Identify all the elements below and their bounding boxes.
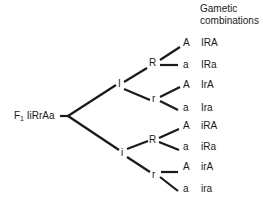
root-genotype-label: F1 IiRrAa xyxy=(14,110,55,123)
branch-I-r xyxy=(124,89,150,100)
allele-a-3: a xyxy=(183,141,189,153)
node-i: i xyxy=(121,147,123,159)
gamete-combination: IRa xyxy=(201,59,217,71)
branch-R2-A xyxy=(159,129,179,138)
branch-r1-A xyxy=(160,87,180,97)
branch-r2-a xyxy=(160,177,178,191)
gamete-combination: IRA xyxy=(201,37,218,49)
branch-root-I xyxy=(68,85,116,116)
branch-R1-A xyxy=(160,47,180,60)
allele-A-2: A xyxy=(183,79,190,91)
root-genotype: IiRrAa xyxy=(27,110,55,121)
allele-a-4: a xyxy=(183,183,189,195)
allele-a-1: a xyxy=(183,59,189,71)
allele-A-3: A xyxy=(183,120,190,132)
branch-R2-a xyxy=(159,142,179,150)
node-r-lower: r xyxy=(152,169,155,181)
branch-r1-a xyxy=(160,101,178,110)
gamete-combination: ira xyxy=(201,183,212,195)
header-line-1: Gametic xyxy=(200,3,259,15)
gamete-combination: Ira xyxy=(201,102,213,114)
gametic-combinations-header: Gametic combinations xyxy=(200,3,259,27)
gamete-combination: IrA xyxy=(201,79,214,91)
gamete-combination: irA xyxy=(201,161,213,173)
node-R-upper: R xyxy=(149,57,156,69)
node-R-lower: R xyxy=(149,134,156,146)
allele-A-1: A xyxy=(183,37,190,49)
branch-i-r xyxy=(127,157,150,172)
branch-root-i xyxy=(68,116,119,150)
header-line-2: combinations xyxy=(200,15,259,27)
node-I: I xyxy=(118,78,121,90)
gamete-combination: iRa xyxy=(201,141,216,153)
branch-I-R xyxy=(124,68,147,82)
node-r-upper: r xyxy=(152,93,155,105)
allele-a-2: a xyxy=(183,102,189,114)
gamete-combination: iRA xyxy=(201,120,217,132)
branch-i-R xyxy=(127,141,148,149)
generation-subscript: 1 xyxy=(20,115,24,122)
allele-A-4: A xyxy=(183,161,190,173)
branch-lines xyxy=(0,0,263,209)
